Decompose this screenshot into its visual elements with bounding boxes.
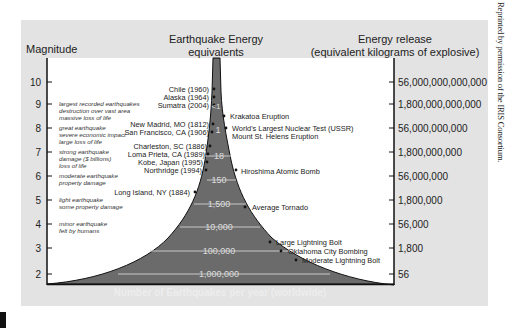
earthquake-label: Northridge (1994) [144, 166, 202, 175]
magnitude-tick: 5 [35, 195, 41, 206]
earthquake-energy-chart: Magnitude Earthquake Energy equivalents … [0, 0, 506, 328]
frequency-count: 18 [214, 151, 224, 161]
magnitude-tick: 9 [35, 99, 41, 110]
description-line: massive loss of life [59, 114, 111, 121]
earthquake-label: San Francisco, CA (1906) [124, 128, 209, 137]
energy-tick: 1,800,000 [398, 195, 443, 206]
magnitude-tick: 3 [35, 243, 41, 254]
magnitude-tick: 7 [35, 147, 41, 158]
energy-tick: 1,800,000,000 [398, 147, 462, 158]
energy-event-label: Moderate Lightning Bolt [302, 256, 380, 265]
description-line: felt by humans [59, 227, 99, 234]
magnitude-tick: 4 [35, 219, 41, 230]
frequency-count: 100,000 [203, 246, 236, 256]
description-line: light earthquake [59, 196, 104, 203]
magnitude-tick: 8 [35, 123, 41, 134]
earthquake-label: Long Island, NY (1884) [114, 188, 190, 197]
energy-tick: 56,000,000 [398, 171, 448, 182]
energy-tick: 56,000 [398, 219, 429, 230]
frequency-count: 1 [215, 125, 220, 135]
earthquake-label: Sumatra (2004) [158, 101, 209, 110]
energy-tick: 56,000,000,000 [398, 123, 468, 134]
right-axis-title-line-2: (equivalent kilograms of explosive) [311, 46, 480, 58]
description-line: largest recorded earthquakes [59, 100, 140, 107]
chart-title-line-1: Earthquake Energy [169, 33, 264, 45]
energy-event-label: Krakatoa Eruption [230, 112, 289, 121]
frequency-count: 10,000 [205, 222, 233, 232]
description-line: great earthquake [59, 124, 106, 131]
credit-text: Reprinted by permission of the IRIS Cons… [492, 2, 506, 312]
description-line: some property damage [59, 203, 123, 210]
energy-tick: 56,000,000,000,000 [398, 77, 487, 88]
energy-tick: 56 [398, 269, 410, 280]
left-axis-title: Magnitude [26, 43, 77, 55]
energy-event-label: Average Tornado [252, 203, 308, 212]
description-line: minor earthquake [59, 220, 108, 227]
energy-event-label: Hiroshima Atomic Bomb [241, 167, 320, 176]
description-line: moderate earthquake [59, 172, 118, 179]
description-line: loss of life [59, 162, 87, 169]
description-line: severe economic impact [59, 131, 126, 138]
description-line: property damage [58, 179, 106, 186]
frequency-count: 1,000,000 [199, 269, 239, 279]
description-line: strong earthquake [59, 148, 109, 155]
description-line: large loss of life [59, 138, 103, 145]
frequency-caption: Number of Earthquakes per year (worldwid… [114, 287, 327, 298]
energy-tick: 1,800,000,000,000 [398, 99, 482, 110]
chart-title-line-2: equivalents [188, 46, 244, 58]
energy-tick: 1,800 [398, 243, 423, 254]
energy-event-label: Mount St. Helens Eruption [232, 132, 318, 141]
corner-block [0, 312, 6, 328]
magnitude-tick: 10 [30, 77, 42, 88]
description-line: destruction over vast area [59, 107, 131, 114]
frequency-count: <1 [211, 102, 221, 111]
description-line: damage ($ billions) [59, 155, 111, 162]
magnitude-tick: 2 [35, 269, 41, 280]
right-axis-title-line-1: Energy release [358, 33, 432, 45]
magnitude-tick: 6 [35, 171, 41, 182]
energy-event-label: Oklahoma City Bombing [288, 247, 368, 256]
energy-event-label: Large Lightning Bolt [276, 238, 342, 247]
frequency-count: 1,500 [208, 199, 231, 209]
frequency-count: 150 [211, 175, 226, 185]
